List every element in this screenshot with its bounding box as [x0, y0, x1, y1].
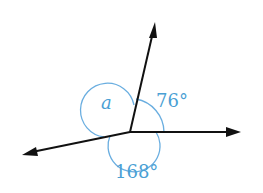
- arrowhead-up-icon: [149, 22, 157, 38]
- ray-lower-left: [32, 132, 130, 152]
- label-76: 76°: [156, 90, 188, 111]
- arrowhead-lower-left-icon: [22, 147, 38, 156]
- label-168: 168°: [115, 161, 158, 182]
- ray-up: [130, 32, 153, 132]
- angle-diagram: 76° a 168°: [0, 0, 263, 193]
- label-a: a: [101, 92, 112, 113]
- arrowhead-east-icon: [226, 127, 241, 137]
